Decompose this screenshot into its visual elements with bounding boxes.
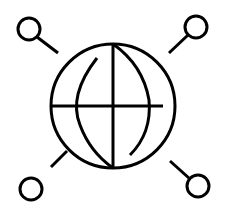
- globe-right-arc: [113, 44, 149, 155]
- node-top-left-circle-icon: [18, 18, 40, 40]
- node-top-left-connector-line: [37, 37, 58, 53]
- global-network-search-icon: [0, 0, 227, 213]
- node-bottom-right-connector-line: [170, 161, 190, 179]
- node-bottom-left-connector-line: [51, 151, 67, 167]
- node-bottom-left-circle-icon: [20, 178, 42, 200]
- globe-left-arc: [76, 58, 113, 168]
- icon-canvas: [0, 0, 227, 213]
- node-top-right-connector-line: [169, 35, 188, 53]
- node-top-right-circle-icon: [185, 16, 207, 38]
